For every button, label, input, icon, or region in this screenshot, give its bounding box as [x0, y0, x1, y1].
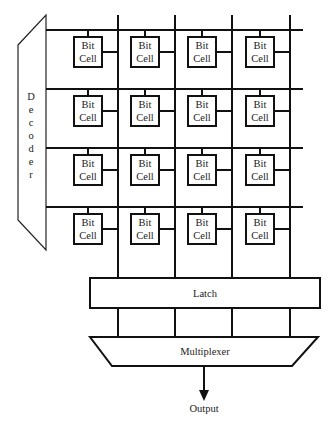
svg-text:d: d — [28, 143, 34, 154]
svg-text:Cell: Cell — [251, 171, 269, 182]
bit-cell: Bit Cell — [74, 148, 118, 185]
latch-to-mux-lines — [118, 308, 290, 337]
output-arrow-icon — [199, 366, 209, 401]
svg-text:Bit: Bit — [82, 158, 95, 169]
multiplexer-label: Multiplexer — [180, 346, 230, 357]
svg-text:Bit: Bit — [196, 99, 209, 110]
svg-text:Bit: Bit — [196, 40, 209, 51]
svg-text:r: r — [29, 169, 33, 180]
svg-text:Bit: Bit — [196, 217, 209, 228]
bit-cell: Bit Cell — [131, 89, 175, 126]
bit-cell-row-2: Bit Cell Bit Cell Bit Cell Bit Cell — [74, 89, 290, 126]
bit-cell: Bit Cell — [131, 207, 175, 244]
svg-text:Bit: Bit — [254, 158, 267, 169]
multiplexer-block: Multiplexer — [90, 337, 318, 366]
bit-cell: Bit Cell — [188, 89, 232, 126]
svg-text:Cell: Cell — [193, 112, 211, 123]
svg-text:Bit: Bit — [82, 99, 95, 110]
svg-text:Cell: Cell — [79, 171, 97, 182]
svg-text:Cell: Cell — [136, 171, 154, 182]
svg-text:Cell: Cell — [136, 112, 154, 123]
svg-text:Bit: Bit — [82, 217, 95, 228]
svg-text:Cell: Cell — [193, 230, 211, 241]
bit-cell-row-1: Bit Cell Bit Cell Bit Cell Bit Cell — [74, 30, 290, 67]
svg-text:Bit: Bit — [196, 158, 209, 169]
svg-text:Bit: Bit — [254, 217, 267, 228]
svg-text:Bit: Bit — [139, 99, 152, 110]
svg-text:Cell: Cell — [136, 53, 154, 64]
bit-cell: Bit Cell — [246, 89, 290, 126]
bit-cell-row-3: Bit Cell Bit Cell Bit Cell Bit Cell — [74, 148, 290, 185]
bit-cell: Bit Cell — [188, 30, 232, 67]
bit-cell: Bit Cell — [188, 207, 232, 244]
svg-text:Cell: Cell — [193, 53, 211, 64]
bit-cell: Bit Cell — [131, 148, 175, 185]
svg-text:Bit: Bit — [254, 40, 267, 51]
svg-text:e: e — [29, 104, 34, 115]
svg-text:Bit: Bit — [254, 99, 267, 110]
bit-cell: Bit Cell — [74, 30, 118, 67]
svg-text:Bit: Bit — [82, 40, 95, 51]
svg-text:D: D — [27, 91, 35, 102]
svg-text:Cell: Cell — [79, 53, 97, 64]
bit-cell: Bit Cell — [246, 148, 290, 185]
latch-label: Latch — [193, 288, 218, 299]
svg-text:Bit: Bit — [139, 217, 152, 228]
svg-text:Cell: Cell — [79, 230, 97, 241]
svg-text:e: e — [29, 156, 34, 167]
bit-cell: Bit Cell — [246, 30, 290, 67]
svg-text:Bit: Bit — [139, 158, 152, 169]
bit-cell-row-4: Bit Cell Bit Cell Bit Cell Bit Cell — [74, 207, 290, 244]
bit-cell: Bit Cell — [246, 207, 290, 244]
svg-text:Cell: Cell — [251, 53, 269, 64]
svg-text:Cell: Cell — [251, 112, 269, 123]
svg-text:c: c — [29, 117, 34, 128]
memory-array-diagram: D e c o d e r Bit Cell Bit — [0, 0, 333, 430]
svg-text:Cell: Cell — [251, 230, 269, 241]
svg-text:Cell: Cell — [79, 112, 97, 123]
output-label: Output — [189, 403, 218, 414]
bit-cell: Bit Cell — [74, 207, 118, 244]
svg-text:Cell: Cell — [193, 171, 211, 182]
svg-text:Cell: Cell — [136, 230, 154, 241]
bit-cell: Bit Cell — [74, 89, 118, 126]
bit-cell: Bit Cell — [131, 30, 175, 67]
latch-block: Latch — [90, 278, 320, 308]
bit-cell: Bit Cell — [188, 148, 232, 185]
svg-text:o: o — [28, 130, 33, 141]
svg-text:Bit: Bit — [139, 40, 152, 51]
